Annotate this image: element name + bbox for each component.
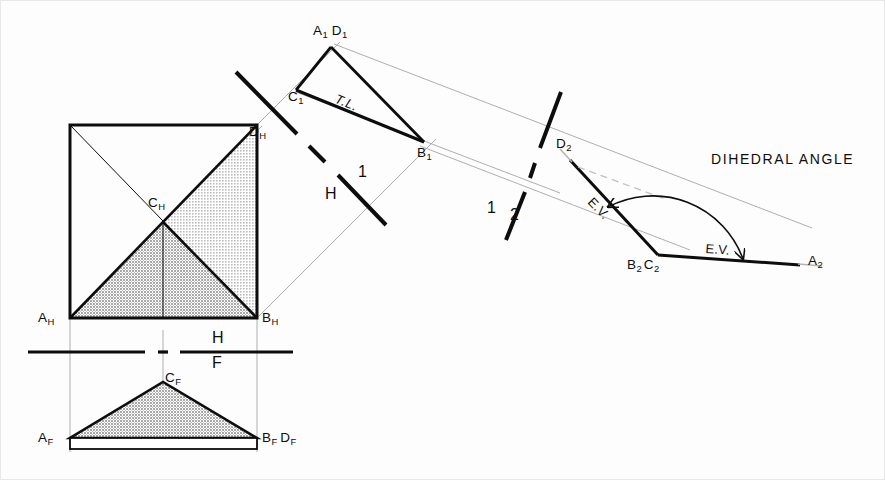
label-bd-f: BFDF <box>262 431 296 445</box>
label-fold-12-2: 2 <box>510 207 519 223</box>
projector-bh-to-b1 <box>257 139 436 318</box>
aux2-edge-view-d2-b2c2 <box>570 160 658 255</box>
front-view-shade <box>70 382 257 438</box>
geometry-svg <box>0 0 885 480</box>
label-a1-d1: A1D1 <box>313 24 347 38</box>
label-a-h: AH <box>38 311 54 325</box>
label-edge-view-2: E.V. <box>705 242 730 257</box>
projector-b1-to-b2 <box>420 146 690 250</box>
label-fold-h1-1: 1 <box>358 164 367 180</box>
label-d2: D2 <box>556 137 572 151</box>
top-view-group <box>70 125 257 318</box>
one-two-seg-2 <box>530 163 535 178</box>
label-b1: B1 <box>417 146 432 160</box>
h1-seg-2 <box>309 146 325 162</box>
aux1-edge-cb-true-length <box>296 90 424 142</box>
label-a-f: AF <box>38 431 53 445</box>
label-dihedral-angle: DIHEDRAL ANGLE <box>711 152 854 166</box>
label-fold-h1-h: H <box>325 186 337 202</box>
label-c-h: CH <box>148 196 165 210</box>
label-d-h: DH <box>249 125 266 139</box>
drawing-canvas: AH BH CH DH H F AF BFDF CF H 1 A1D1 C1 B… <box>0 0 885 480</box>
projector-dh-to-c1 <box>257 42 340 125</box>
front-view-group <box>70 382 257 449</box>
label-a2: A2 <box>808 254 823 268</box>
front-view-base-plate <box>70 438 257 449</box>
aux-view-1-group <box>296 47 424 142</box>
label-fold-h: H <box>212 330 224 346</box>
label-c1: C1 <box>288 90 304 104</box>
label-fold-f: F <box>212 355 222 371</box>
aux1-edge-ac <box>296 47 331 90</box>
label-b-h: BH <box>262 311 278 325</box>
label-fold-12-1: 1 <box>487 200 496 216</box>
label-b2-c2: B2C2 <box>627 258 659 272</box>
h1-seg-3 <box>338 175 386 225</box>
label-c-f: CF <box>165 371 181 385</box>
